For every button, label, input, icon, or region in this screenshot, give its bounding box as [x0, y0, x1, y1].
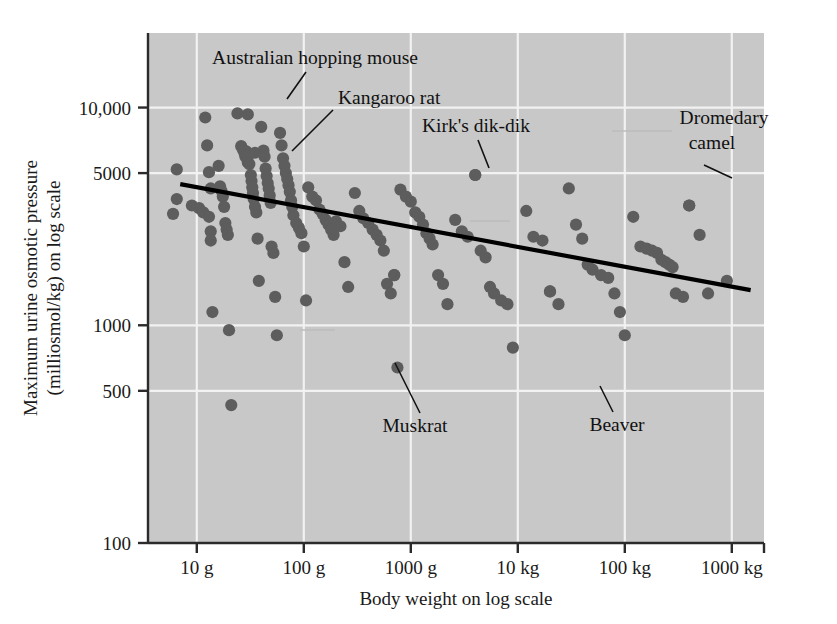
y-tick-label: 1000: [93, 315, 131, 336]
data-point: [222, 229, 234, 241]
data-point: [342, 281, 354, 293]
data-point: [602, 272, 614, 284]
data-point: [614, 306, 626, 318]
data-point: [619, 329, 631, 341]
data-point: [274, 127, 286, 139]
annotation-label: Muskrat: [383, 415, 449, 436]
data-point: [334, 220, 346, 232]
data-point: [205, 234, 217, 246]
data-point: [225, 399, 237, 411]
annotation-label: Kangaroo rat: [338, 87, 441, 108]
annotated-data-point: [544, 285, 556, 297]
data-point: [298, 240, 310, 252]
data-point: [693, 229, 705, 241]
data-point: [479, 251, 491, 263]
data-point: [405, 195, 417, 207]
y-axis-title-line-2: (milliosmol/kg) on log scale: [43, 181, 65, 396]
data-point: [250, 206, 262, 218]
data-point: [427, 238, 439, 250]
annotation-label: Australian hopping mouse: [212, 47, 418, 68]
annotation-label: Beaver: [589, 414, 645, 435]
data-point: [507, 341, 519, 353]
data-point: [338, 256, 350, 268]
data-point: [171, 193, 183, 205]
y-tick-labels-group: 10,00050001000500100: [79, 98, 131, 554]
data-point: [520, 205, 532, 217]
y-axis-title-line-1: Maximum urine osmotic pressure: [20, 160, 41, 416]
annotated-data-point: [388, 269, 400, 281]
data-point: [255, 121, 267, 133]
y-tick-label: 100: [103, 533, 132, 554]
data-point: [576, 233, 588, 245]
annotated-data-point: [469, 169, 481, 181]
data-point: [437, 278, 449, 290]
data-point: [201, 139, 213, 151]
data-point: [269, 291, 281, 303]
x-tick-label: 1000 kg: [701, 557, 763, 578]
data-point: [449, 214, 461, 226]
x-tick-labels-group: 10 g100 g1000 g10 kg100 kg1000 kg: [180, 557, 763, 578]
annotation-label: Kirk's dik-dik: [422, 115, 530, 136]
annotated-data-point: [242, 108, 254, 120]
x-tick-label: 10 kg: [496, 557, 539, 578]
data-point: [552, 298, 564, 310]
annotated-data-point: [249, 147, 261, 159]
data-point: [563, 182, 575, 194]
data-point: [203, 211, 215, 223]
data-point: [608, 287, 620, 299]
annotated-data-point: [683, 199, 695, 211]
y-tick-label: 500: [103, 381, 132, 402]
x-tick-label: 10 g: [180, 557, 214, 578]
data-point: [243, 158, 255, 170]
data-point: [271, 329, 283, 341]
data-point: [275, 139, 287, 151]
x-axis-title: Body weight on log scale: [359, 588, 552, 609]
data-point: [218, 201, 230, 213]
data-point: [213, 160, 225, 172]
data-point: [206, 306, 218, 318]
x-tick-label: 100 kg: [599, 557, 652, 578]
y-tick-label: 5000: [93, 163, 131, 184]
data-point: [627, 211, 639, 223]
data-point: [171, 163, 183, 175]
data-point: [667, 261, 679, 273]
data-point: [702, 287, 714, 299]
data-point: [253, 275, 265, 287]
chart-figure: 10 g100 g1000 g10 kg100 kg1000 kg 10,000…: [0, 0, 837, 624]
data-point: [231, 107, 243, 119]
data-point: [441, 298, 453, 310]
data-point: [167, 208, 179, 220]
y-tick-label: 10,000: [79, 98, 131, 119]
data-point: [223, 324, 235, 336]
scatter-plot-svg: 10 g100 g1000 g10 kg100 kg1000 kg 10,000…: [0, 0, 837, 624]
x-tick-label: 100 g: [282, 557, 325, 578]
data-point: [295, 227, 307, 239]
data-point: [349, 187, 361, 199]
data-point: [199, 111, 211, 123]
data-point: [385, 287, 397, 299]
data-point: [536, 234, 548, 246]
data-point: [378, 245, 390, 257]
data-point: [300, 294, 312, 306]
x-tick-label: 1000 g: [385, 557, 438, 578]
data-point: [501, 298, 513, 310]
data-point: [251, 233, 263, 245]
data-point: [570, 219, 582, 231]
data-point: [267, 247, 279, 259]
data-point: [677, 291, 689, 303]
